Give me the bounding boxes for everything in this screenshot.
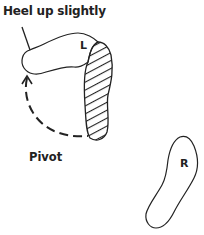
right-foot-label: R [180, 157, 188, 170]
diagram-graphic [0, 0, 204, 235]
heel-leader-line [22, 27, 30, 50]
heel-up-annotation: Heel up slightly [3, 4, 106, 18]
pivot-arc [26, 78, 88, 136]
pivot-label: Pivot [29, 150, 62, 164]
footwork-diagram: Heel up slightly Pivot L R [0, 0, 204, 235]
left-foot-label: L [80, 39, 87, 52]
right-foot-outline [146, 136, 198, 228]
